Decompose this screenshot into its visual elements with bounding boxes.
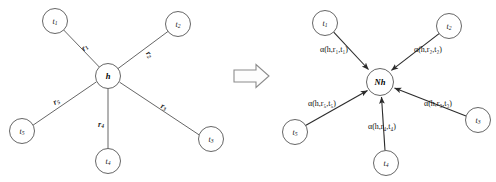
transform-arrow-icon xyxy=(234,65,269,88)
left-graph-nodes: t1 t2 t3 t4 xyxy=(10,9,224,174)
diagram-canvas: t1 t2 t3 t4 xyxy=(0,0,496,182)
attention-label-a4: α(h,r₄,t₄) xyxy=(368,122,396,131)
node-right-t1-sub: 1 xyxy=(325,22,328,28)
svg-text:r2: r2 xyxy=(144,49,155,60)
node-right-t4[interactable]: t4 xyxy=(374,151,399,176)
relation-label-r5: r5 xyxy=(51,96,61,107)
node-t5[interactable]: t5 xyxy=(10,119,35,144)
relation-label-r1: r1 xyxy=(79,42,90,53)
relation-label-r2: r2 xyxy=(144,49,155,60)
left-graph-edges xyxy=(33,30,199,149)
attention-label-a5: α(h,r₅,t₅) xyxy=(308,99,336,108)
node-right-t5-sub: 5 xyxy=(295,131,298,137)
edge-h-t2 xyxy=(118,31,169,69)
svg-text:r4: r4 xyxy=(98,120,104,130)
figure-root: t1 t2 t3 t4 xyxy=(0,0,496,182)
relation-r4-sub: 4 xyxy=(100,123,104,129)
node-right-t3[interactable]: t3 xyxy=(466,108,491,133)
node-t1[interactable]: t1 xyxy=(43,9,68,34)
node-right-t1[interactable]: t1 xyxy=(313,11,338,36)
node-aggregate-nh[interactable]: Nh xyxy=(367,69,394,96)
svg-text:r5: r5 xyxy=(51,96,61,107)
svg-text:r3: r3 xyxy=(159,101,168,112)
node-t4[interactable]: t4 xyxy=(96,149,121,174)
attention-label-a1: α(h,r₁,t₁) xyxy=(320,45,348,54)
arrow-t5-nh xyxy=(306,91,368,126)
node-right-t3-sub: 3 xyxy=(477,119,481,125)
node-right-t2[interactable]: t2 xyxy=(437,14,462,39)
node-right-t2-sub: 2 xyxy=(449,25,452,31)
node-head-h-label: h xyxy=(106,71,111,81)
node-right-t4-sub: 4 xyxy=(386,162,389,168)
node-t2[interactable]: t2 xyxy=(166,12,191,37)
node-t5-sub: 5 xyxy=(22,130,25,136)
node-head-h[interactable]: h xyxy=(96,64,121,89)
relation-label-r3: r3 xyxy=(159,101,168,112)
svg-text:r1: r1 xyxy=(79,42,90,53)
node-aggregate-nh-label: Nh xyxy=(374,77,386,87)
attention-label-a2: α(h,r₂,t₂) xyxy=(414,45,442,54)
node-t2-sub: 2 xyxy=(178,23,181,29)
relation-label-r4: r4 xyxy=(98,120,104,130)
right-graph-nodes: t1 t2 t3 t4 xyxy=(283,11,491,176)
edge-h-t5 xyxy=(33,82,97,125)
node-t1-sub: 1 xyxy=(55,20,58,26)
node-t4-sub: 4 xyxy=(108,160,111,166)
node-t3-sub: 3 xyxy=(210,138,214,144)
node-t3[interactable]: t3 xyxy=(199,127,224,152)
node-right-t5[interactable]: t5 xyxy=(283,120,308,145)
attention-label-a3: α(h,r₃,t₃) xyxy=(424,99,452,108)
